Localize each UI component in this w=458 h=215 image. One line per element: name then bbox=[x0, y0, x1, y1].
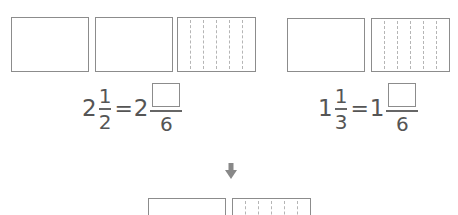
divider-line bbox=[216, 20, 217, 69]
fraction: 1 3 bbox=[335, 85, 348, 133]
denominator: 6 bbox=[160, 113, 173, 135]
divider-line bbox=[297, 201, 298, 215]
result-fraction: 6 bbox=[386, 83, 418, 135]
whole-number: 1 bbox=[318, 97, 333, 120]
result-whole-number: 1 bbox=[370, 97, 385, 120]
numerator: 1 bbox=[99, 85, 112, 107]
equals-sign: = bbox=[350, 96, 368, 121]
divider-line bbox=[229, 20, 230, 69]
whole-number: 2 bbox=[82, 97, 97, 120]
answer-blank[interactable] bbox=[388, 83, 416, 107]
divider-line bbox=[245, 201, 246, 215]
divider-line bbox=[410, 21, 411, 69]
divider-line bbox=[203, 20, 204, 69]
denominator: 3 bbox=[335, 111, 348, 133]
equals-sign: = bbox=[114, 96, 132, 121]
answer-blank[interactable] bbox=[152, 83, 180, 107]
divider-line bbox=[436, 21, 437, 69]
divider-line bbox=[423, 21, 424, 69]
whole-box-3 bbox=[287, 18, 365, 72]
divider-line bbox=[258, 201, 259, 215]
divider-line bbox=[242, 20, 243, 69]
equation-right: 1 1 3 = 1 6 bbox=[318, 83, 420, 135]
sixths-box-left bbox=[177, 17, 256, 72]
down-arrow-icon bbox=[225, 163, 237, 179]
numerator: 1 bbox=[335, 85, 348, 107]
denominator: 6 bbox=[396, 113, 409, 135]
equation-left: 2 1 2 = 2 6 bbox=[82, 83, 184, 135]
result-whole-box bbox=[148, 198, 226, 215]
divider-line bbox=[190, 20, 191, 69]
divider-line bbox=[271, 201, 272, 215]
divider-line bbox=[384, 21, 385, 69]
divider-line bbox=[284, 201, 285, 215]
result-fraction: 6 bbox=[150, 83, 182, 135]
sixths-box-right bbox=[371, 18, 450, 72]
denominator: 2 bbox=[99, 111, 112, 133]
result-whole-number: 2 bbox=[134, 97, 149, 120]
result-sixths-box bbox=[232, 198, 311, 215]
fraction: 1 2 bbox=[99, 85, 112, 133]
whole-box-1 bbox=[11, 17, 89, 72]
divider-line bbox=[397, 21, 398, 69]
whole-box-2 bbox=[95, 17, 173, 72]
